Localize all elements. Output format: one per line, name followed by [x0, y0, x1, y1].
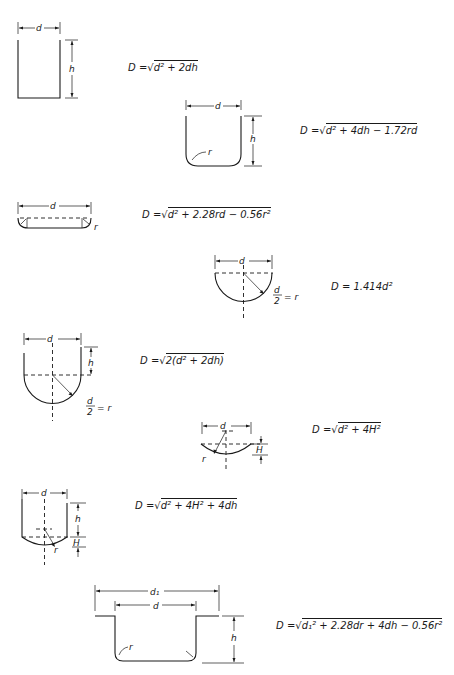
label-d: d: [36, 23, 42, 33]
label-r: r: [129, 642, 134, 652]
label-d: d: [47, 334, 53, 344]
figure-cylinder-rounded-corner: d r h: [182, 100, 267, 175]
formula-7: D =√d² + 4H² + 4dh: [135, 500, 237, 511]
label-half-num: d: [87, 396, 93, 406]
label-r: r: [208, 147, 213, 157]
formula-6: D =√d² + 4H²: [312, 424, 381, 435]
formula-2: D =√d² + 4dh − 1.72rd: [300, 125, 417, 136]
radicand: d² + 2.28rd − 0.56r²: [168, 207, 271, 220]
label-d: d: [50, 201, 56, 211]
label-h: h: [69, 64, 75, 74]
radicand: d² + 4H²: [338, 422, 381, 435]
formula-3: D =√d² + 2.28rd − 0.56r²: [142, 209, 271, 220]
formula-5: D =√2(d² + 2dh): [140, 355, 224, 366]
radicand: d² + 4H² + 4dh: [161, 498, 238, 511]
label-H: H: [256, 445, 263, 455]
label-h: h: [75, 514, 81, 524]
radicand: d² + 2dh: [154, 60, 198, 73]
figure-spherical-segment: d r H: [198, 420, 273, 472]
figure-cylinder-segment-bottom: d r h H: [18, 487, 93, 567]
formula-lhs: D =: [312, 424, 331, 435]
label-r: r: [94, 222, 99, 232]
figure-hemisphere: d d 2 = r: [212, 255, 307, 320]
label-d: d: [239, 256, 245, 266]
formula-lhs: D =: [300, 125, 319, 136]
label-r-eq: = r: [284, 292, 299, 302]
formula-lhs: D =: [142, 209, 161, 220]
label-H: H: [73, 538, 80, 548]
label-d: d: [215, 101, 221, 111]
label-h: h: [231, 633, 237, 643]
label-half-den: 2: [87, 407, 93, 417]
label-h: h: [250, 134, 256, 144]
label-h: h: [88, 358, 94, 368]
formula-lhs: D =: [135, 500, 154, 511]
formula-1: D =√d² + 2dh: [128, 62, 198, 73]
label-half-den: 2: [274, 296, 280, 306]
label-d: d: [41, 488, 47, 498]
formula-8: D =√d₁² + 2.28dr + 4dh − 0.56r²: [276, 620, 442, 631]
figure-flanged-cup: d₁ d r h: [92, 583, 247, 668]
formula-4: D = 1.414d²: [331, 281, 392, 292]
label-half-num: d: [274, 285, 280, 295]
figure-cylinder-hemispherical-bottom: d h d 2 = r: [14, 333, 124, 423]
label-r: r: [202, 454, 207, 464]
label-d: d: [220, 421, 226, 431]
radicand: d₁² + 2.28dr + 4dh − 0.56r²: [302, 618, 443, 631]
label-d1: d₁: [150, 587, 160, 597]
formula-lhs: D =: [140, 355, 159, 366]
formula-lhs: D =: [276, 620, 295, 631]
figure-cylinder-flat: d h: [10, 20, 80, 105]
formula-lhs: D =: [128, 62, 147, 73]
figure-shallow-dish: d r: [12, 200, 102, 235]
label-r-eq: = r: [97, 403, 112, 413]
radicand: d² + 4dh − 1.72rd: [326, 123, 418, 136]
radicand: 2(d² + 2dh): [166, 353, 224, 366]
label-r: r: [54, 545, 59, 555]
label-d: d: [153, 601, 159, 611]
